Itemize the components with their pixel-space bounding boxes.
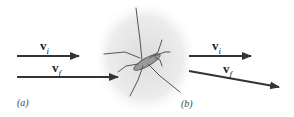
vector-vf-b [189, 71, 279, 87]
caption-b: (b) [181, 98, 193, 109]
caption-a: (a) [17, 97, 29, 108]
label-vi-b: vi [212, 38, 221, 56]
label-vf-b: vf [223, 61, 232, 79]
diagram-canvas [0, 0, 294, 117]
label-vf-a: vf [52, 60, 61, 78]
label-vi-a: vi [40, 38, 49, 56]
